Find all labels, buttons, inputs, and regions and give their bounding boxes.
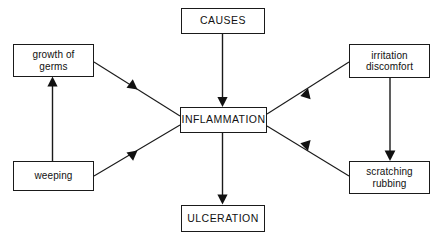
node-weeping[interactable]: weeping — [13, 161, 94, 191]
edge-weeping-to-inflammation — [94, 125, 180, 176]
edge-inflammation-to-scratching — [267, 126, 349, 176]
edge-weeping-to-growth-of-germs — [47, 77, 57, 162]
diagram-canvas: CAUSES growth of germs irritation discom… — [0, 0, 442, 238]
node-growth-of-germs[interactable]: growth of germs — [13, 44, 94, 77]
node-scratching-rubbing[interactable]: scratching rubbing — [349, 161, 430, 194]
edge-inflammation-to-ulceration — [217, 133, 227, 205]
node-weeping-label: weeping — [35, 170, 73, 181]
node-irritation-discomfort[interactable]: irritation discomfort — [349, 44, 430, 78]
node-growth-of-germs-label: growth of germs — [32, 49, 74, 71]
edge-inflammation-to-irritation — [267, 62, 349, 114]
edge-irritation-to-scratching — [385, 78, 396, 161]
node-inflammation-label: INFLAMMATION — [182, 114, 266, 126]
node-scratching-rubbing-label: scratching rubbing — [366, 166, 413, 188]
edge-growth-to-inflammation — [94, 62, 180, 116]
node-irritation-discomfort-label: irritation discomfort — [366, 50, 413, 72]
node-ulceration[interactable]: ULCERATION — [181, 205, 265, 232]
node-ulceration-label: ULCERATION — [187, 213, 258, 225]
node-causes[interactable]: CAUSES — [181, 8, 265, 34]
node-inflammation[interactable]: INFLAMMATION — [180, 107, 267, 133]
edge-causes-to-inflammation — [217, 34, 227, 107]
node-causes-label: CAUSES — [200, 15, 246, 27]
